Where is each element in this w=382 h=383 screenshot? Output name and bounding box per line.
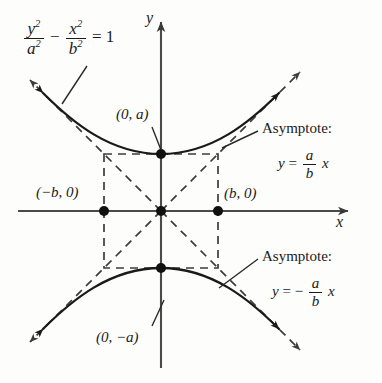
- leader-equation: [62, 66, 87, 104]
- equation-minus: −: [50, 27, 60, 46]
- label-vertex-top: (0, a): [116, 107, 149, 122]
- asymptote-upper-lhs: y: [278, 155, 285, 171]
- equation-term-x: x2 b2: [66, 20, 86, 57]
- x-axis-label: x: [336, 214, 343, 230]
- label-b-positive: (b, 0): [224, 186, 257, 201]
- hyperbola-figure: y2 a2 − x2 b2 = 1 y x (0, a) (0, −a) (−b…: [0, 0, 382, 383]
- label-b-negative: (−b, 0): [36, 185, 79, 200]
- asymptote-lower-title: Asymptote:: [262, 249, 332, 264]
- asymptote-lower-variable: x: [328, 283, 335, 299]
- point-vertex-bottom: [156, 263, 166, 273]
- asymptote-upper-slope: a b: [303, 148, 317, 181]
- equation-term-y: y2 a2: [24, 20, 44, 57]
- asymptote-upper-equation: y = a b x: [278, 148, 329, 181]
- point-b-positive: [213, 206, 223, 216]
- asymptote-lower-equation: y = − a b x: [272, 276, 335, 309]
- y-axis-label: y: [146, 10, 153, 26]
- asymptote-lower-sign: −: [295, 283, 303, 299]
- hyperbola-equation: y2 a2 − x2 b2 = 1: [22, 20, 114, 57]
- asymptote-lower-lhs: y: [272, 283, 279, 299]
- leader-vertex-bottom: [152, 300, 164, 326]
- leader-vertex-top: [152, 127, 161, 150]
- asymptote-upper-title: Asymptote:: [262, 121, 332, 136]
- asymptote-upper-equals: =: [288, 155, 296, 171]
- point-b-negative: [99, 206, 109, 216]
- equation-equals: =: [92, 27, 102, 46]
- asymptote-upper-variable: x: [322, 155, 329, 171]
- leader-asymptote-lower: [219, 259, 258, 288]
- asymptote-lower-equals: =: [282, 283, 290, 299]
- label-vertex-bottom: (0, −a): [96, 330, 139, 345]
- equation-right-side: 1: [106, 27, 115, 46]
- asymptote-lower-slope: a b: [309, 276, 323, 309]
- point-origin: [156, 206, 166, 216]
- point-vertex-top: [156, 149, 166, 159]
